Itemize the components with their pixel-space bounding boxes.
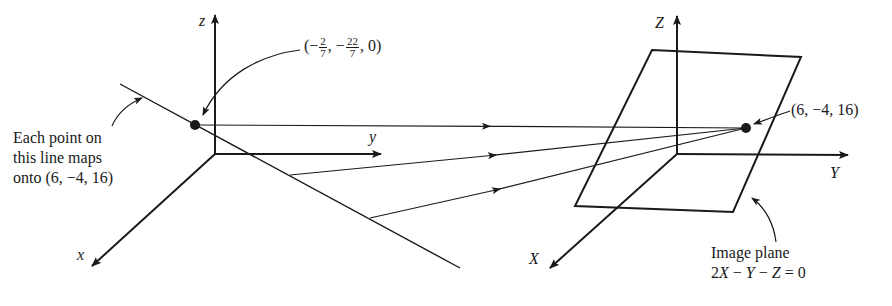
line-annotation-line3: onto (6, −4, 16)	[13, 168, 113, 188]
left-x-label: x	[77, 246, 84, 264]
right-x-axis	[550, 154, 677, 268]
source-point-dot	[190, 120, 200, 130]
right-y-label: Y	[830, 164, 839, 182]
plane-equation: 2X − Y − Z = 0	[711, 263, 806, 283]
projection-rays	[196, 125, 746, 218]
preimage-line	[120, 84, 460, 268]
right-z-label: Z	[655, 14, 664, 32]
source-point-prefix: (−	[304, 37, 318, 54]
line-annotation-line1: Each point on	[13, 128, 113, 148]
right-x-label: X	[529, 250, 539, 268]
line-annotation: Each point on this line maps onto (6, −4…	[13, 128, 113, 188]
line-annotation-line2: this line maps	[13, 148, 113, 168]
plane-annotation-title: Image plane	[711, 243, 806, 263]
left-y-label: y	[369, 128, 376, 146]
source-point-pointer	[203, 50, 300, 115]
left-z-label: z	[199, 12, 205, 30]
right-axes	[550, 16, 848, 268]
plane-annotation-pointer	[752, 198, 776, 242]
fraction-2-7: 27	[319, 36, 327, 59]
image-point-dot	[741, 123, 751, 133]
plane-annotation: Image plane 2X − Y − Z = 0	[711, 243, 806, 283]
right-y-axis	[677, 154, 848, 155]
source-point-label: (−27, −227, 0)	[304, 36, 381, 59]
fraction-22-7: 227	[346, 36, 359, 59]
image-plane	[575, 50, 801, 212]
image-point-label: (6, −4, 16)	[791, 101, 859, 119]
line-annotation-pointer	[112, 98, 142, 126]
